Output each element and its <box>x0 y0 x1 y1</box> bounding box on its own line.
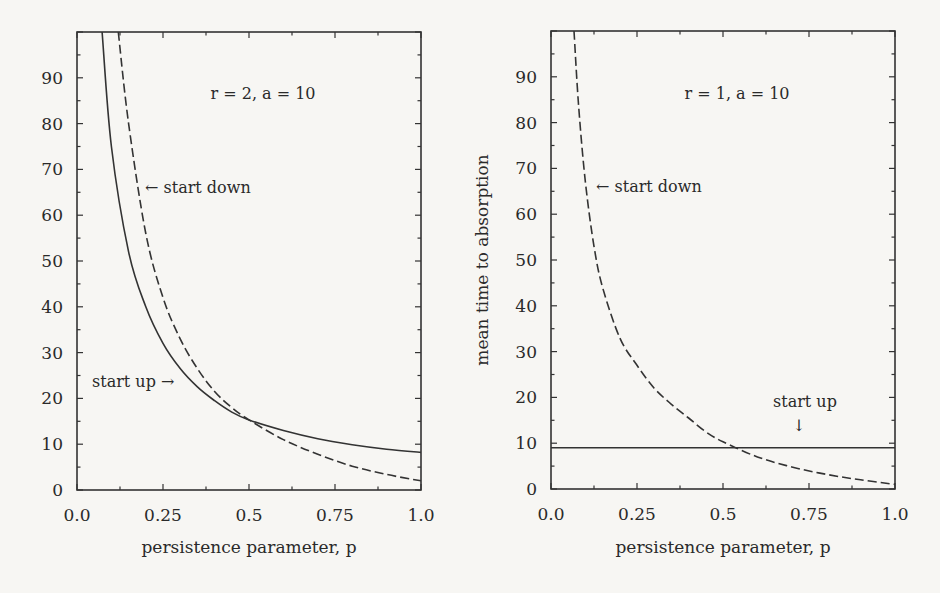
y-tick-label: 60 <box>515 204 537 224</box>
y-tick-label: 40 <box>41 297 63 317</box>
y-tick-label: 0 <box>526 479 537 499</box>
x-tick-label: 0.25 <box>618 504 656 524</box>
y-tick-label: 60 <box>41 205 63 225</box>
left-param-label: r = 2, a = 10 <box>210 84 315 103</box>
left-y-tick-labels: 0102030405060708090 <box>41 68 63 500</box>
y-tick-label: 80 <box>41 114 63 134</box>
x-tick-label: 0.0 <box>537 504 564 524</box>
y-tick-label: 40 <box>515 296 537 316</box>
y-tick-label: 10 <box>41 434 63 454</box>
y-tick-label: 20 <box>515 387 537 407</box>
x-tick-label: 0.75 <box>316 505 354 525</box>
right-x-tick-labels: 0.00.250.50.751.0 <box>537 504 908 524</box>
x-tick-label: 0.5 <box>709 504 736 524</box>
y-axis-label: mean time to absorption <box>472 154 492 365</box>
y-tick-label: 90 <box>41 68 63 88</box>
x-tick-label: 0.5 <box>235 505 262 525</box>
y-tick-label: 80 <box>515 113 537 133</box>
y-tick-label: 30 <box>515 342 537 362</box>
left-start-up-annotation: start up → <box>92 372 174 391</box>
x-tick-label: 0.25 <box>144 505 182 525</box>
right-param-label: r = 1, a = 10 <box>684 84 789 103</box>
y-tick-label: 50 <box>41 251 63 271</box>
y-tick-label: 20 <box>41 388 63 408</box>
left-x-tick-labels: 0.00.250.50.751.0 <box>63 505 434 525</box>
right-x-axis-label: persistence parameter, p <box>615 537 830 557</box>
y-tick-label: 10 <box>515 433 537 453</box>
x-tick-label: 0.75 <box>790 504 828 524</box>
y-tick-label: 70 <box>41 159 63 179</box>
y-tick-label: 50 <box>515 250 537 270</box>
right-plot-panel: 0102030405060708090 0.00.250.50.751.0 r … <box>472 31 909 557</box>
y-tick-label: 90 <box>515 67 537 87</box>
x-tick-label: 0.0 <box>63 505 90 525</box>
right-start-up-arrow-icon: ↓ <box>792 416 805 435</box>
right-start-down-annotation: ← start down <box>596 177 702 196</box>
left-x-axis-label: persistence parameter, p <box>141 537 356 557</box>
y-tick-label: 30 <box>41 343 63 363</box>
figure: 0102030405060708090 0.00.250.50.751.0 r … <box>0 0 940 593</box>
y-tick-label: 0 <box>52 480 63 500</box>
x-tick-label: 1.0 <box>881 504 908 524</box>
x-tick-label: 1.0 <box>407 505 434 525</box>
right-start-up-annotation: start up <box>773 392 837 411</box>
left-start-down-annotation: ← start down <box>145 178 251 197</box>
left-plot-panel: 0102030405060708090 0.00.250.50.751.0 r … <box>41 32 434 557</box>
right-y-tick-labels: 0102030405060708090 <box>515 67 537 499</box>
y-tick-label: 70 <box>515 158 537 178</box>
